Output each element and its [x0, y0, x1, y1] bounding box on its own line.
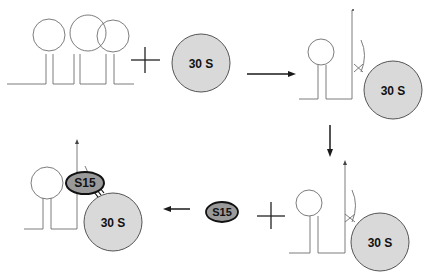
arrow-down [327, 125, 333, 157]
diagram-canvas: 30 S 30 S 30 S [0, 0, 426, 280]
ribosome-label: 30 S [368, 236, 393, 250]
arrow-left [163, 206, 190, 212]
s15-protein: S15 [206, 202, 238, 222]
ribosome-30s: 30 S [351, 213, 409, 271]
arrow-right [247, 71, 296, 77]
ribosome-label: 30 S [101, 216, 126, 230]
ribosome-label: 30 S [189, 57, 214, 71]
mrna-pseudoknot [289, 163, 356, 253]
ribosome-30s: 30 S [84, 193, 142, 251]
s15-label: S15 [74, 176, 96, 190]
mrna-pseudoknot [299, 10, 365, 99]
ribosome-30s: 30 S [364, 61, 422, 119]
plus-operator [257, 202, 285, 229]
mrna-three-stem-loops [7, 15, 134, 84]
ribosome-label: 30 S [381, 84, 406, 98]
s15-label: S15 [212, 206, 232, 218]
plus-operator [131, 47, 160, 73]
ribosome-30s: 30 S [172, 34, 230, 92]
s15-protein: S15 [66, 172, 104, 194]
